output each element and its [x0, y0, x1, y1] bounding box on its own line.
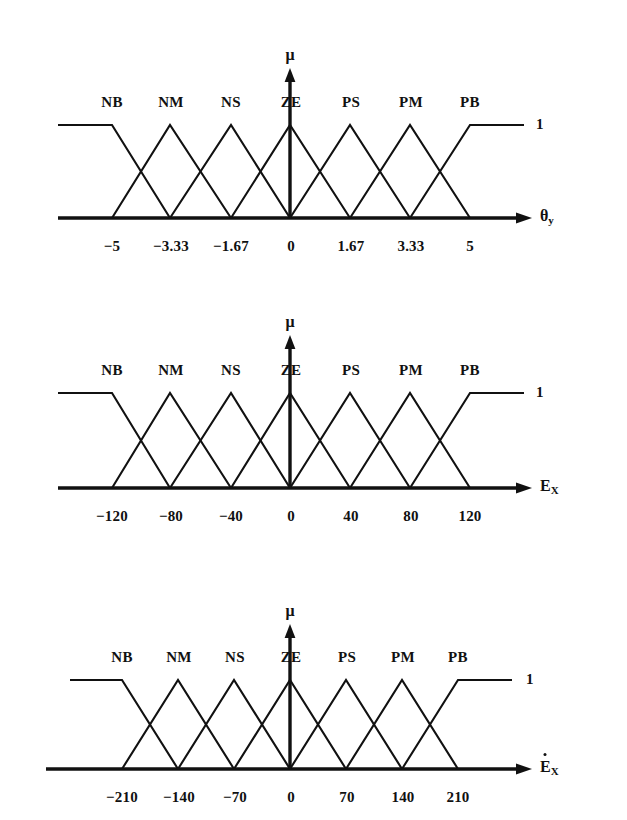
membership-panel-e-x: μ 1 NB NM NS ZE PS PM PB −120 −80 −40 0 … [0, 275, 627, 550]
set-label-ze: ZE [281, 95, 302, 110]
set-curve-nb [70, 680, 178, 769]
figure-canvas: μ 1 NB NM NS ZE PS PM PB −5 −3.33 −1.67 … [0, 0, 627, 820]
set-label-nb: NB [101, 95, 122, 110]
set-curve-nm [122, 680, 234, 769]
set-label-nm: NM [158, 95, 184, 110]
mu-axis-label: μ [285, 603, 294, 619]
set-label-nb: NB [111, 650, 132, 665]
mu-axis-label: μ [285, 47, 294, 63]
x-tick-label: −140 [163, 790, 195, 805]
membership-panel-edot-x: μ 1 NB NM NS ZE PS PM PB −210 −140 −70 0… [0, 550, 627, 820]
set-curve-ps [290, 393, 410, 488]
axis-symbol-e-dot: E [540, 758, 551, 775]
set-label-nm: NM [166, 650, 192, 665]
x-tick-label: 210 [446, 790, 469, 805]
x-tick-label: −40 [219, 509, 243, 524]
axis-subscript: y [548, 214, 554, 226]
set-curve-pb [410, 393, 524, 488]
axis-subscript: X [551, 765, 559, 777]
set-curve-nb [58, 393, 170, 488]
set-label-pb: PB [448, 650, 468, 665]
x-tick-label: 120 [458, 509, 481, 524]
x-axis-variable-label: EX [540, 759, 559, 777]
set-label-ns: NS [221, 363, 241, 378]
x-axis-arrowhead [516, 483, 532, 494]
set-curve-ps [290, 680, 402, 769]
set-label-pm: PM [399, 95, 423, 110]
set-label-pb: PB [460, 363, 480, 378]
x-tick-label: 0 [287, 509, 295, 524]
set-curve-nm [112, 125, 231, 218]
set-curve-pm [346, 680, 458, 769]
set-label-pm: PM [399, 363, 423, 378]
x-axis-arrowhead [516, 213, 532, 224]
x-tick-label: −1.67 [213, 239, 249, 254]
set-curve-ns [170, 125, 290, 218]
set-curve-pb [410, 125, 524, 218]
x-tick-label: 1.67 [337, 239, 364, 254]
x-tick-label: −80 [159, 509, 183, 524]
set-curve-nb [58, 125, 170, 218]
plateau-one-label: 1 [536, 385, 544, 400]
set-label-pb: PB [460, 95, 480, 110]
set-curve-nm [112, 393, 231, 488]
set-label-ps: PS [338, 650, 356, 665]
x-tick-label: 70 [339, 790, 354, 805]
mu-axis-label: μ [285, 314, 294, 330]
set-label-ns: NS [225, 650, 245, 665]
set-curve-ns [170, 393, 290, 488]
x-tick-label: −210 [106, 790, 138, 805]
mu-axis-arrowhead [285, 335, 296, 349]
panel-2-plot [0, 275, 627, 550]
set-curve-pm [350, 393, 470, 488]
membership-panel-theta-y: μ 1 NB NM NS ZE PS PM PB −5 −3.33 −1.67 … [0, 0, 627, 275]
set-curve-pm [350, 125, 470, 218]
axis-symbol-e: E [540, 477, 551, 494]
x-tick-label: −120 [96, 509, 128, 524]
x-tick-label: −70 [223, 790, 247, 805]
set-label-pm: PM [391, 650, 415, 665]
set-label-ps: PS [342, 95, 360, 110]
set-label-nm: NM [158, 363, 184, 378]
x-tick-label: 0 [287, 790, 295, 805]
set-curve-pb [402, 680, 512, 769]
x-tick-label: 5 [466, 239, 474, 254]
axis-subscript: X [551, 484, 559, 496]
x-axis-arrowhead [516, 764, 532, 775]
x-tick-label: 0 [287, 239, 295, 254]
x-tick-label: −5 [104, 239, 120, 254]
set-curve-ps [290, 125, 410, 218]
x-tick-label: 40 [343, 509, 358, 524]
set-label-ze: ZE [281, 363, 302, 378]
x-tick-label: −3.33 [153, 239, 189, 254]
x-tick-label: 3.33 [397, 239, 424, 254]
set-curve-ns [178, 680, 290, 769]
x-axis-variable-label: EX [540, 478, 559, 496]
x-axis-variable-label: θy [540, 208, 554, 226]
mu-axis-arrowhead [285, 68, 296, 82]
axis-symbol-e: E [540, 758, 551, 775]
derivative-dot-icon [544, 753, 547, 756]
x-tick-label: 140 [391, 790, 414, 805]
plateau-one-label: 1 [536, 117, 544, 132]
set-label-ps: PS [342, 363, 360, 378]
mu-axis-arrowhead [285, 624, 296, 638]
set-label-ze: ZE [281, 650, 302, 665]
plateau-one-label: 1 [526, 672, 534, 687]
x-tick-label: 80 [403, 509, 418, 524]
set-label-ns: NS [221, 95, 241, 110]
panel-1-plot [0, 0, 627, 275]
set-label-nb: NB [101, 363, 122, 378]
